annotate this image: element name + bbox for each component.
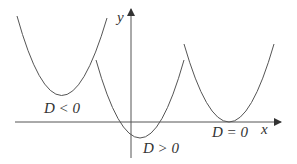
x-axis-label: x	[260, 121, 268, 137]
parabola-d-negative	[17, 16, 107, 96]
label-d-negative: D < 0	[43, 100, 80, 116]
y-axis-label: y	[115, 9, 124, 25]
label-d-positive: D > 0	[142, 140, 179, 156]
discriminant-diagram: y x D < 0 D > 0 D = 0	[0, 0, 297, 164]
parabola-d-zero	[184, 44, 274, 122]
label-d-zero: D = 0	[211, 124, 248, 140]
parabola-d-positive	[96, 60, 184, 138]
